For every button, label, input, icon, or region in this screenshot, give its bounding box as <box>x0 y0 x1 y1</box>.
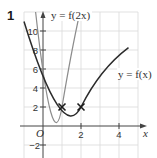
y-tick-2: 2 <box>33 102 38 113</box>
y-tick-10: 10 <box>27 26 38 37</box>
graph-figure: 10 8 6 4 2 −2 2 4 O x y = f(2x) y = f(x)… <box>0 0 157 158</box>
y-tick-4: 4 <box>33 83 38 94</box>
question-number: 1 <box>7 8 14 23</box>
x-tick-4: 4 <box>116 129 121 140</box>
origin-label: O <box>36 127 44 139</box>
label-f-2x: y = f(2x) <box>51 9 91 22</box>
label-f-x: y = f(x) <box>118 68 152 81</box>
x-axis-label: x <box>142 127 148 139</box>
y-tick-6: 6 <box>33 64 38 75</box>
x-tick-2: 2 <box>78 129 83 140</box>
y-tick-neg2: −2 <box>29 140 40 151</box>
